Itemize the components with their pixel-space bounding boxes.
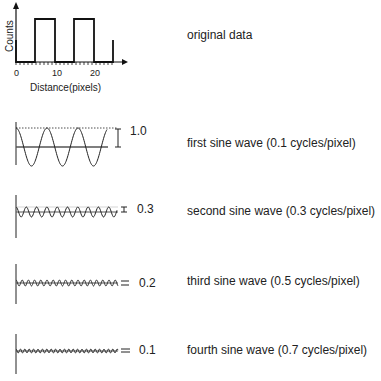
original-data-label: original data (187, 28, 252, 42)
fourth-wave-label: fourth sine wave (0.7 cycles/pixel) (187, 343, 367, 357)
fourth-sine-wave-plot (16, 334, 130, 374)
second-wave-amplitude: 0.3 (137, 202, 154, 216)
third-wave-label: third sine wave (0.5 cycles/pixel) (187, 274, 360, 288)
x-axis-label: Distance(pixels) (30, 82, 101, 93)
tick-0: 0 (14, 68, 19, 78)
diagram-canvas: 0 10 20 Distance(pixels) Counts (0, 0, 381, 381)
second-sine-wave-plot (16, 195, 127, 238)
y-axis-label: Counts (4, 20, 15, 52)
third-wave-amplitude: 0.2 (139, 276, 156, 290)
second-wave-label: second sine wave (0.3 cycles/pixel) (187, 204, 375, 218)
fourth-wave-amplitude: 0.1 (139, 343, 156, 357)
third-sine-wave-plot (16, 264, 129, 304)
first-wave-amplitude: 1.0 (130, 124, 147, 138)
tick-20: 20 (90, 68, 100, 78)
first-sine-wave-plot (16, 122, 121, 166)
original-data-plot (13, 2, 128, 65)
tick-10: 10 (52, 68, 62, 78)
first-wave-label: first sine wave (0.1 cycles/pixel) (187, 136, 356, 150)
